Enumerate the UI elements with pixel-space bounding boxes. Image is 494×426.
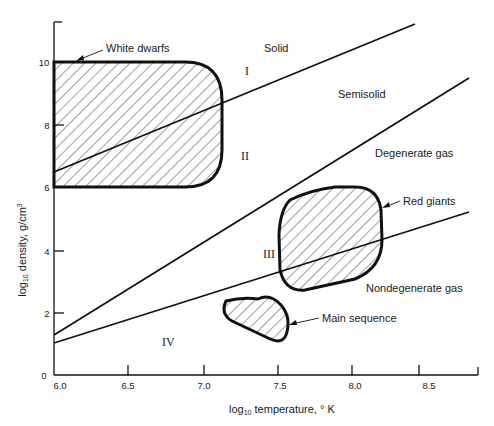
- region-I-label: I: [245, 64, 249, 78]
- white-dwarfs-label: White dwarfs: [106, 42, 170, 54]
- y-axis-label: log10 density, g/cm3: [16, 203, 29, 297]
- y-tick-6: 6: [44, 182, 49, 193]
- x-tick-7.0: 7.0: [197, 380, 210, 391]
- solid-label: Solid: [264, 42, 288, 54]
- main-sequence-region: [224, 297, 288, 341]
- main-sequence-arrowhead: [289, 320, 297, 325]
- x-tick-7.5: 7.5: [273, 380, 286, 391]
- red-giants-label: Red giants: [403, 195, 456, 207]
- nondegenerate-gas-label: Nondegenerate gas: [366, 282, 463, 294]
- phase-diagram: 0 2 4 6 8 10 6.0 6.5 7.0 7.5 8.0 8.5 log…: [0, 0, 494, 426]
- y-tick-4: 4: [44, 246, 49, 257]
- x-tick-6.0: 6.0: [53, 380, 66, 391]
- x-tick-8.0: 8.0: [348, 380, 361, 391]
- y-tick-10: 10: [39, 57, 50, 68]
- red-giants-arrowhead: [382, 202, 390, 208]
- y-tick-2: 2: [44, 308, 49, 319]
- y-tick-8: 8: [44, 120, 49, 131]
- degenerate-gas-label: Degenerate gas: [375, 147, 454, 159]
- x-axis: [54, 365, 478, 375]
- y-tick-0: 0: [41, 370, 46, 381]
- x-tick-8.5: 8.5: [422, 380, 435, 391]
- region-II-label: II: [241, 149, 249, 163]
- white-dwarfs-arrowhead: [76, 55, 84, 61]
- region-IV-label: IV: [162, 335, 175, 349]
- semisolid-label: Semisolid: [338, 88, 386, 100]
- white-dwarfs-region: [54, 62, 222, 187]
- region-III-label: III: [263, 247, 275, 261]
- x-axis-label: log10 temperature, ° K: [229, 403, 335, 416]
- main-sequence-label: Main sequence: [322, 312, 397, 324]
- red-giants-region: [279, 187, 382, 290]
- x-tick-6.5: 6.5: [121, 380, 134, 391]
